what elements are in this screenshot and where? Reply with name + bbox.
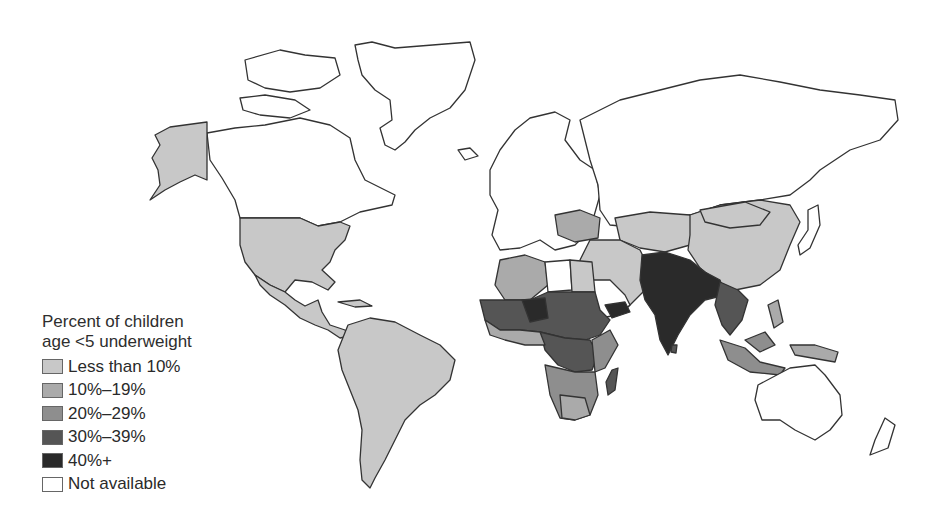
region-philippines[interactable] [768,300,783,328]
legend-title-line2: age <5 underweight [42,332,262,352]
legend-item-not-available: Not available [42,473,262,497]
region-japan [798,205,820,255]
legend-label: 30%–39% [68,427,146,447]
region-eastern-europe[interactable] [555,210,600,242]
region-arctic-islands-2 [240,95,310,118]
region-southeast-asia[interactable] [715,282,748,335]
region-south-america[interactable] [338,318,455,488]
region-south-africa[interactable] [560,395,590,420]
legend-label: Not available [68,474,166,494]
region-borneo[interactable] [745,332,775,352]
legend-item-less-than-10: Less than 10% [42,355,262,379]
region-usa[interactable] [240,218,350,292]
region-north-africa[interactable] [495,255,548,300]
legend-swatch [42,453,63,468]
region-australia [755,365,842,440]
legend-label: 20%–29% [68,404,146,424]
region-sri-lanka[interactable] [671,345,677,353]
legend-item-10-19: 10%–19% [42,379,262,403]
legend-item-40-plus: 40%+ [42,449,262,473]
region-mexico-central-america[interactable] [255,275,350,338]
region-libya [545,260,572,292]
region-madagascar[interactable] [606,368,618,395]
legend-item-20-29: 20%–29% [42,402,262,426]
region-greenland [355,42,475,150]
region-alaska[interactable] [150,122,207,200]
legend-swatch [42,383,63,398]
legend-title-line1: Percent of children [42,312,262,332]
region-caribbean [338,300,372,307]
legend-item-30-39: 30%–39% [42,426,262,450]
legend: Percent of children age <5 underweight L… [42,312,262,496]
legend-label: 10%–19% [68,380,146,400]
legend-swatch [42,477,63,492]
region-canada [207,118,395,226]
region-arctic-islands [245,50,340,92]
legend-swatch [42,406,63,421]
region-new-guinea[interactable] [790,345,838,362]
legend-label: Less than 10% [68,357,180,377]
region-new-zealand [870,418,895,455]
legend-title: Percent of children age <5 underweight [42,312,262,352]
legend-swatch [42,359,63,374]
legend-label: 40%+ [68,451,112,471]
legend-swatch [42,430,63,445]
region-iceland [458,148,478,160]
region-egypt[interactable] [570,260,595,292]
